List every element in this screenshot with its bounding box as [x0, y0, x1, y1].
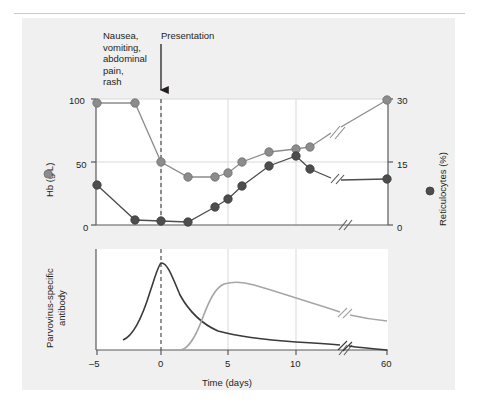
figure-container: Nausea, vomiting, abdominal pain, rash P…: [0, 0, 479, 403]
bottom-chart-plot-area: [96, 249, 388, 355]
chart-vectors: [0, 0, 479, 403]
legend-marker-hb: [44, 170, 52, 178]
legend-marker-reticulocytes: [426, 187, 434, 195]
top-chart-plot-area: [44, 44, 434, 230]
